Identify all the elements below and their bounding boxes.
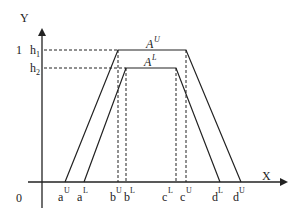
- svg-text:U: U: [239, 186, 245, 195]
- origin-label: 0: [16, 191, 22, 205]
- one-label: 1: [16, 43, 22, 57]
- svg-text:1: 1: [36, 50, 40, 59]
- y-axis-label: Y: [20, 11, 29, 25]
- h2-label: h 2: [30, 61, 40, 77]
- svg-text:L: L: [151, 53, 157, 62]
- upper-set-label: A U: [145, 35, 161, 51]
- cL-label: c L: [162, 186, 173, 204]
- fuzzy-number-diagram: Y X 0 1 h 1 h 2 A U A L a U a L b U b L …: [0, 0, 304, 218]
- dU-label: d U: [233, 186, 245, 204]
- lower-set-label: A L: [143, 53, 157, 69]
- svg-text:c: c: [180, 190, 185, 204]
- aL-label: a L: [77, 186, 88, 204]
- svg-text:U: U: [154, 35, 161, 44]
- svg-text:L: L: [218, 186, 223, 195]
- h1-label: h 1: [30, 43, 40, 59]
- svg-text:A: A: [143, 55, 152, 69]
- svg-text:U: U: [186, 186, 192, 195]
- svg-text:L: L: [83, 186, 88, 195]
- bL-label: b L: [124, 186, 135, 204]
- cU-label: c U: [180, 186, 192, 204]
- x-axis-label: X: [262, 169, 271, 183]
- svg-text:U: U: [116, 186, 122, 195]
- dL-label: d L: [212, 186, 223, 204]
- bU-label: b U: [110, 186, 122, 204]
- svg-text:c: c: [162, 190, 167, 204]
- aU-label: a U: [58, 186, 70, 204]
- svg-text:L: L: [130, 186, 135, 195]
- svg-text:2: 2: [36, 68, 40, 77]
- svg-text:L: L: [168, 186, 173, 195]
- svg-text:A: A: [145, 37, 154, 51]
- svg-text:U: U: [64, 186, 70, 195]
